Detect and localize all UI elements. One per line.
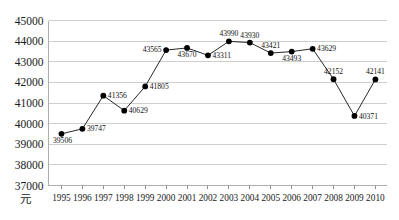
data-point-marker[interactable] <box>247 40 253 46</box>
data-point-label: 43421 <box>261 41 280 50</box>
chart-canvas: 4500044000430004200041000400003900038000… <box>0 0 399 220</box>
data-point-label: 43311 <box>212 51 231 60</box>
x-axis-tick-label: 2008 <box>324 193 343 203</box>
data-point-label: 42152 <box>324 67 343 76</box>
data-point-marker[interactable] <box>205 52 211 58</box>
data-point-label: 42141 <box>366 67 385 76</box>
data-point-label: 40629 <box>129 106 148 115</box>
x-axis-tick-label: 2006 <box>282 193 301 203</box>
x-axis-tick-label: 1996 <box>73 193 92 203</box>
data-point-marker[interactable] <box>331 76 337 82</box>
data-point-marker[interactable] <box>226 38 232 44</box>
data-point-label: 40371 <box>359 112 378 121</box>
x-axis-tick-label: 2010 <box>366 193 385 203</box>
x-axis-tick-label: 1998 <box>115 193 134 203</box>
data-point-marker[interactable] <box>373 77 379 83</box>
y-axis-tick-label: 44000 <box>15 35 44 47</box>
x-axis-tick-label: 2001 <box>178 193 197 203</box>
y-axis-tick-label: 40000 <box>15 118 44 130</box>
x-axis-tick-label: 1995 <box>52 193 71 203</box>
data-point-label: 43930 <box>240 31 259 40</box>
y-axis-tick-label: 38000 <box>15 159 44 171</box>
y-axis-tick-label: 37000 <box>15 180 44 192</box>
x-axis-tick-label: 2003 <box>220 193 239 203</box>
data-point-marker[interactable] <box>268 50 274 56</box>
data-point-label: 41805 <box>150 82 169 91</box>
data-point-label: 43565 <box>143 45 162 54</box>
line-chart-figure: 4500044000430004200041000400003900038000… <box>0 0 399 220</box>
x-axis-tick-label: 1997 <box>94 193 113 203</box>
y-axis-tick-label: 42000 <box>15 76 44 88</box>
x-axis-tick-label: 2007 <box>303 193 322 203</box>
data-point-label: 39506 <box>53 136 72 145</box>
data-point-marker[interactable] <box>100 93 106 99</box>
y-axis-tick-label: 39000 <box>15 138 44 150</box>
x-axis-tick-label: 1999 <box>136 193 155 203</box>
data-point-label: 43629 <box>317 44 336 53</box>
x-axis-tick-label: 2005 <box>261 193 280 203</box>
data-point-marker[interactable] <box>142 84 148 90</box>
y-axis-unit-label: 元 <box>20 193 32 205</box>
data-point-label: 43990 <box>219 29 238 38</box>
y-axis-tick-label: 41000 <box>15 97 44 109</box>
data-point-marker[interactable] <box>163 47 169 53</box>
data-point-marker[interactable] <box>352 113 358 119</box>
data-point-marker[interactable] <box>121 108 127 114</box>
x-axis-tick-label: 2004 <box>241 193 260 203</box>
y-axis-tick-label: 43000 <box>15 56 44 68</box>
x-axis-tick-label: 2009 <box>345 193 364 203</box>
y-axis-tick-label: 45000 <box>15 15 44 27</box>
x-axis-tick-label: 2002 <box>199 193 218 203</box>
data-point-label: 41356 <box>108 91 127 100</box>
data-point-label: 43670 <box>178 50 197 59</box>
data-point-marker[interactable] <box>80 126 86 132</box>
data-point-marker[interactable] <box>310 46 316 52</box>
data-point-label: 43493 <box>282 54 301 63</box>
data-point-label: 39747 <box>87 124 106 133</box>
x-axis-tick-label: 2000 <box>157 193 176 203</box>
